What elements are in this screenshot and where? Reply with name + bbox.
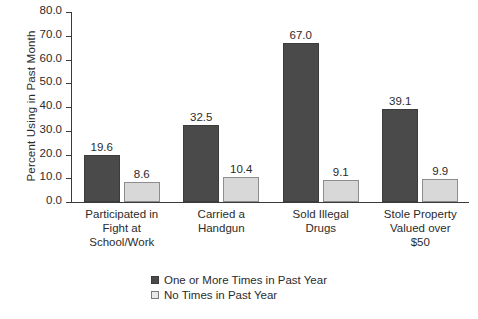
x-category-label: Stole PropertyValued over$50 — [371, 207, 471, 249]
x-axis-category-labels: Participated inFight atSchool/WorkCarrie… — [72, 207, 469, 259]
legend-item[interactable]: One or More Times in Past Year — [151, 272, 327, 287]
y-tick-label: 10.0 — [40, 170, 62, 182]
bar-value-label: 10.4 — [230, 163, 252, 175]
bar-group: 39.19.9 — [371, 12, 471, 202]
bar-value-label: 8.6 — [134, 168, 150, 180]
bar-chart-figure: Percent Using in Past Month 80.070.060.0… — [0, 0, 478, 319]
bar[interactable]: 8.6 — [124, 182, 160, 202]
x-category-label: Participated inFight atSchool/Work — [72, 207, 172, 249]
legend-item[interactable]: No Times in Past Year — [151, 287, 327, 302]
bar-group: 67.09.1 — [271, 12, 371, 202]
x-category-label-line: Handgun — [172, 221, 272, 235]
x-category-label-line: Participated in — [72, 207, 172, 221]
x-category-label-line: Sold Illegal — [271, 207, 371, 221]
bar-value-label: 9.9 — [432, 165, 448, 177]
y-tick-label: 0.0 — [46, 194, 62, 206]
y-tick-mark — [66, 178, 71, 179]
bar[interactable]: 10.4 — [223, 177, 259, 202]
y-tick-label: 30.0 — [40, 123, 62, 135]
y-tick-mark — [66, 83, 71, 84]
y-tick-label: 40.0 — [40, 99, 62, 111]
legend-label: One or More Times in Past Year — [164, 274, 327, 286]
bar[interactable]: 19.6 — [84, 155, 120, 202]
legend-swatch-icon — [151, 276, 159, 284]
x-category-label-line: Stole Property — [371, 207, 471, 221]
bar-value-label: 9.1 — [333, 166, 349, 178]
x-axis-line — [71, 202, 469, 203]
y-tick-mark — [66, 12, 71, 13]
y-tick-label: 60.0 — [40, 52, 62, 64]
legend-items: One or More Times in Past YearNo Times i… — [151, 272, 327, 302]
bar-value-label: 19.6 — [91, 141, 113, 153]
y-tick-mark — [66, 36, 71, 37]
bar-groups: 19.68.632.510.467.09.139.19.9 — [72, 12, 469, 202]
x-category-label-line: Carried a — [172, 207, 272, 221]
x-category-label-line: $50 — [371, 235, 471, 249]
bar-group: 19.68.6 — [72, 12, 172, 202]
bar-value-label: 39.1 — [389, 95, 411, 107]
x-category-label-line: Fight at — [72, 221, 172, 235]
x-category-label-line: Drugs — [271, 221, 371, 235]
chart-legend: One or More Times in Past YearNo Times i… — [0, 272, 478, 303]
y-tick-label: 50.0 — [40, 75, 62, 87]
bar[interactable]: 9.9 — [422, 179, 458, 203]
x-category-label-line: Valued over — [371, 221, 471, 235]
bar[interactable]: 9.1 — [323, 180, 359, 202]
plot-area: 80.070.060.050.040.030.020.010.00.0 19.6… — [71, 12, 469, 202]
y-tick-mark — [66, 202, 71, 203]
legend-swatch-icon — [151, 291, 159, 299]
bar[interactable]: 67.0 — [283, 43, 319, 202]
y-tick-label: 20.0 — [40, 147, 62, 159]
x-category-label: Sold IllegalDrugs — [271, 207, 371, 235]
legend-label: No Times in Past Year — [164, 289, 277, 301]
y-tick-mark — [66, 155, 71, 156]
bar-value-label: 32.5 — [190, 111, 212, 123]
y-tick-label: 70.0 — [40, 28, 62, 40]
y-axis-title: Percent Using in Past Month — [25, 1, 37, 211]
y-tick-mark — [66, 107, 71, 108]
x-category-label-line: School/Work — [72, 235, 172, 249]
y-tick-label: 80.0 — [40, 4, 62, 16]
bar[interactable]: 39.1 — [382, 109, 418, 202]
bar[interactable]: 32.5 — [183, 125, 219, 202]
y-tick-mark — [66, 131, 71, 132]
y-tick-mark — [66, 60, 71, 61]
x-category-label: Carried aHandgun — [172, 207, 272, 235]
bar-value-label: 67.0 — [290, 29, 312, 41]
bar-group: 32.510.4 — [172, 12, 272, 202]
